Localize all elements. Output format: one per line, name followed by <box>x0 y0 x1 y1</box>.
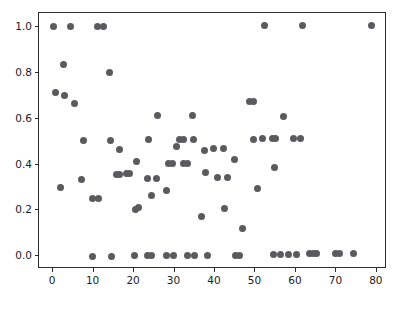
data-point <box>224 174 231 181</box>
data-point <box>133 158 140 165</box>
data-point <box>95 195 102 202</box>
data-point <box>336 250 343 257</box>
data-point <box>254 185 261 192</box>
data-point <box>169 160 176 167</box>
x-axis-tick-label: 60 <box>280 275 310 286</box>
data-point <box>61 92 68 99</box>
data-point <box>100 23 107 30</box>
y-axis-tick-mark <box>35 118 39 119</box>
data-point <box>297 135 304 142</box>
data-point <box>145 136 152 143</box>
data-point <box>201 147 208 154</box>
x-axis-tick-label: 50 <box>239 275 269 286</box>
data-point <box>52 89 59 96</box>
data-point <box>78 176 85 183</box>
data-point <box>231 156 238 163</box>
x-axis-tick-mark <box>93 268 94 272</box>
data-point <box>239 225 246 232</box>
data-point <box>350 250 357 257</box>
data-point <box>190 136 197 143</box>
data-point <box>285 251 292 258</box>
y-axis-tick-label: 0.8 <box>15 67 32 77</box>
data-point <box>67 23 74 30</box>
x-axis-tick-mark <box>254 268 255 272</box>
data-point <box>184 252 191 259</box>
data-point <box>368 22 375 29</box>
y-axis-tick-label: 1.0 <box>15 21 32 31</box>
x-axis-tick-label: 20 <box>118 275 148 286</box>
x-axis-tick-label: 70 <box>320 275 350 286</box>
y-axis-tick-mark <box>35 72 39 73</box>
data-point <box>189 112 196 119</box>
y-axis-tick-mark <box>35 26 39 27</box>
data-point <box>250 136 257 143</box>
data-point <box>148 252 155 259</box>
y-axis-tick-mark <box>35 164 39 165</box>
data-point <box>135 204 142 211</box>
y-axis-tick-mark <box>35 255 39 256</box>
data-point <box>259 135 266 142</box>
data-point <box>277 251 284 258</box>
data-point <box>107 137 114 144</box>
x-axis-tick-mark <box>335 268 336 272</box>
data-point <box>148 192 155 199</box>
data-point <box>154 112 161 119</box>
data-point <box>163 187 170 194</box>
data-point <box>180 136 187 143</box>
data-point <box>293 251 300 258</box>
data-point <box>173 143 180 150</box>
data-point <box>236 252 243 259</box>
data-point <box>80 137 87 144</box>
data-point <box>214 174 221 181</box>
data-point <box>57 184 64 191</box>
x-axis-tick-mark <box>214 268 215 272</box>
x-axis-tick-mark <box>174 268 175 272</box>
data-point <box>153 175 160 182</box>
y-axis-tick-label: 0.0 <box>15 250 32 260</box>
data-point <box>184 160 191 167</box>
scatter-plot-figure: 0.00.20.40.60.81.001020304050607080 <box>0 0 401 317</box>
data-point <box>272 135 279 142</box>
x-axis-tick-mark <box>133 268 134 272</box>
data-point <box>220 145 227 152</box>
data-point <box>108 253 115 260</box>
data-point <box>290 135 297 142</box>
data-point <box>210 145 217 152</box>
x-axis-tick-label: 10 <box>78 275 108 286</box>
x-axis-tick-label: 30 <box>159 275 189 286</box>
y-axis-tick-label: 0.6 <box>15 113 32 123</box>
y-axis-tick-label: 0.4 <box>15 159 32 169</box>
y-axis-tick-mark <box>35 209 39 210</box>
data-point <box>299 22 306 29</box>
data-point <box>131 252 138 259</box>
x-axis-tick-mark <box>376 268 377 272</box>
data-point <box>144 175 151 182</box>
data-point <box>261 22 268 29</box>
data-point <box>313 250 320 257</box>
data-point <box>89 253 96 260</box>
data-point <box>60 61 67 68</box>
data-point <box>204 252 211 259</box>
data-point <box>198 213 205 220</box>
data-points-layer <box>39 13 385 267</box>
data-point <box>202 169 209 176</box>
data-point <box>126 170 133 177</box>
x-axis-tick-mark <box>52 268 53 272</box>
x-axis-tick-label: 40 <box>199 275 229 286</box>
x-axis-tick-mark <box>295 268 296 272</box>
data-point <box>250 98 257 105</box>
data-point <box>116 146 123 153</box>
y-axis-tick-label: 0.2 <box>15 204 32 214</box>
data-point <box>50 23 57 30</box>
data-point <box>191 252 198 259</box>
data-point <box>106 69 113 76</box>
data-point <box>163 252 170 259</box>
x-axis-tick-label: 80 <box>361 275 391 286</box>
data-point <box>280 113 287 120</box>
data-point <box>170 252 177 259</box>
data-point <box>221 205 228 212</box>
plot-area <box>38 12 386 268</box>
data-point <box>271 164 278 171</box>
x-axis-tick-label: 0 <box>37 275 67 286</box>
data-point <box>71 100 78 107</box>
